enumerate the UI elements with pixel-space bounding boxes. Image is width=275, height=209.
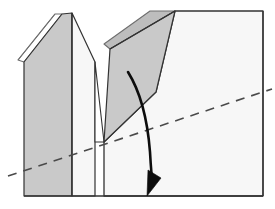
geometry-diagram — [0, 0, 275, 209]
figure-container — [0, 0, 275, 209]
